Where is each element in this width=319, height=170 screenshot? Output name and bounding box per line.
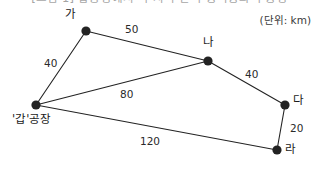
- edge-label-da-ra: 20: [290, 123, 303, 134]
- node-label-na: 나: [203, 37, 214, 49]
- node-label-da: 다: [293, 95, 304, 107]
- node-gap: [31, 100, 40, 109]
- node-label-ga: 가: [65, 9, 76, 21]
- node-da: [280, 100, 289, 109]
- node-label-ra: 라: [285, 144, 296, 156]
- node-na: [203, 56, 212, 65]
- edge-ga-na: [86, 31, 208, 61]
- node-layer: [31, 26, 289, 154]
- edge-label-gap-na: 80: [120, 89, 133, 100]
- edge-label-gap-ra: 120: [140, 136, 160, 147]
- node-ga: [81, 26, 90, 35]
- edge-label-ga-na: 50: [125, 24, 138, 35]
- figure-container: [그림 1] 갑공장에서 각 지역 간 수송비용과 수송량 (단위: km) 4…: [0, 0, 319, 170]
- edge-layer: [36, 31, 285, 150]
- edge-label-gap-ga: 40: [44, 58, 57, 69]
- edge-da-ra: [277, 105, 285, 150]
- node-ra: [272, 145, 281, 154]
- node-label-gap: '갑'공장: [12, 114, 51, 126]
- edge-label-na-da: 40: [245, 69, 258, 80]
